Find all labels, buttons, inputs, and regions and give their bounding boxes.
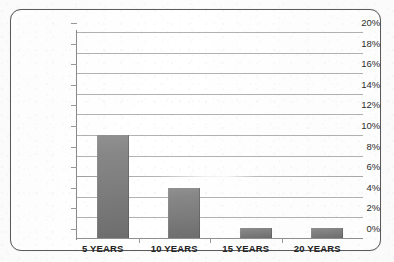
y-axis-tick <box>71 23 77 24</box>
bar <box>240 228 272 238</box>
gridline-16 <box>77 73 363 74</box>
gridline-0 <box>77 238 363 239</box>
gridline-12 <box>77 114 363 115</box>
bar <box>97 135 129 238</box>
gridline-18 <box>77 53 363 54</box>
gridline-14 <box>77 94 363 95</box>
plot-area <box>77 32 363 238</box>
bar <box>311 228 343 238</box>
gridline-20 <box>77 32 363 33</box>
y-axis-label: 20% <box>328 18 380 28</box>
chart-screenshot: 20%18%16%14%12%10%8%6%4%2%0% 5 YEARS10 Y… <box>0 0 394 262</box>
x-axis-label: 20 YEARS <box>272 243 362 255</box>
bar <box>168 188 200 238</box>
chart-frame: 20%18%16%14%12%10%8%6%4%2%0% 5 YEARS10 Y… <box>10 9 381 251</box>
